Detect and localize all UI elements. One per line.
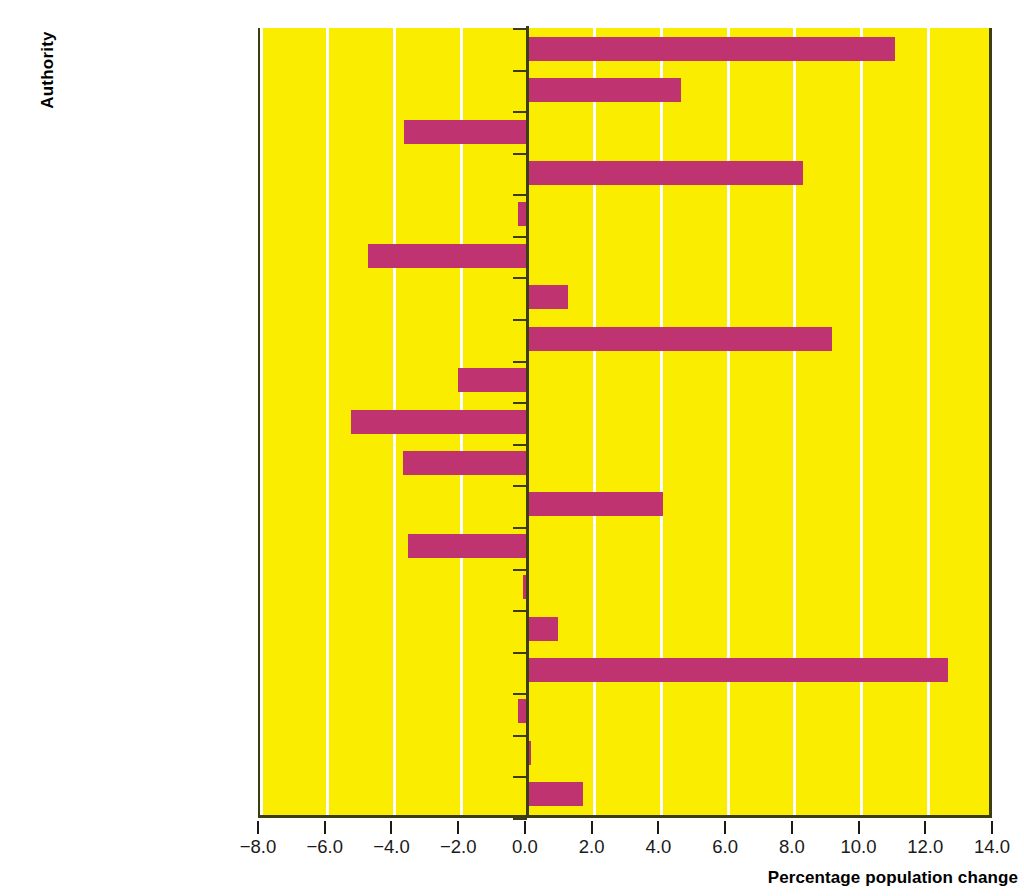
x-tick-label: 14.0 bbox=[974, 836, 1010, 858]
category-tick bbox=[513, 776, 527, 778]
x-tick bbox=[324, 821, 326, 834]
bar bbox=[528, 285, 568, 309]
bar-row bbox=[261, 442, 989, 483]
bar-row bbox=[261, 111, 989, 152]
bar-row bbox=[261, 608, 989, 649]
bar-row bbox=[261, 28, 989, 69]
bar-row bbox=[261, 484, 989, 525]
x-tick bbox=[591, 821, 593, 834]
bar-row bbox=[261, 691, 989, 732]
bar bbox=[404, 120, 527, 144]
bar bbox=[368, 244, 528, 268]
gridline bbox=[994, 28, 997, 815]
category-tick bbox=[513, 735, 527, 737]
bar bbox=[528, 617, 558, 641]
x-tick bbox=[724, 821, 726, 834]
x-tick bbox=[524, 821, 526, 834]
x-tick-label: 10.0 bbox=[841, 836, 877, 858]
bar bbox=[403, 451, 528, 475]
x-tick-label: 4.0 bbox=[646, 836, 672, 858]
x-tick bbox=[991, 821, 993, 834]
bar-row bbox=[261, 732, 989, 773]
bar-row bbox=[261, 401, 989, 442]
x-tick-label: 0.0 bbox=[512, 836, 538, 858]
x-axis-tick-labels: −8.0−6.0−4.0−2.00.02.04.06.08.010.012.01… bbox=[258, 836, 992, 864]
bar bbox=[528, 161, 803, 185]
bar bbox=[528, 37, 895, 61]
category-tick bbox=[513, 319, 527, 321]
x-tick bbox=[858, 821, 860, 834]
x-tick-label: 2.0 bbox=[579, 836, 605, 858]
bar-row bbox=[261, 69, 989, 110]
bar bbox=[528, 658, 948, 682]
bar-series bbox=[261, 28, 989, 815]
bar-row bbox=[261, 649, 989, 690]
zero-axis-line bbox=[526, 26, 529, 815]
bar bbox=[528, 327, 832, 351]
x-tick bbox=[657, 821, 659, 834]
bar-row bbox=[261, 152, 989, 193]
bar-row bbox=[261, 235, 989, 276]
x-axis-title: Percentage population change bbox=[768, 868, 1018, 888]
x-tick-label: −2.0 bbox=[440, 836, 477, 858]
category-tick bbox=[513, 361, 527, 363]
category-tick bbox=[513, 70, 527, 72]
x-axis-tick-marks bbox=[258, 821, 992, 835]
category-tick bbox=[513, 153, 527, 155]
bar-row bbox=[261, 566, 989, 607]
bar bbox=[528, 492, 663, 516]
category-tick bbox=[513, 485, 527, 487]
category-tick bbox=[513, 527, 527, 529]
bar bbox=[528, 782, 583, 806]
plot-area bbox=[258, 28, 992, 818]
bar bbox=[528, 78, 681, 102]
category-tick bbox=[513, 194, 527, 196]
bar bbox=[351, 410, 528, 434]
bar-chart: Authority YorkWest YorkshireTyne and Wea… bbox=[0, 0, 1024, 896]
bar bbox=[408, 534, 528, 558]
category-tick bbox=[513, 693, 527, 695]
category-tick bbox=[513, 610, 527, 612]
category-tick bbox=[513, 28, 527, 30]
x-tick bbox=[257, 821, 259, 834]
category-tick bbox=[513, 277, 527, 279]
x-tick-label: −6.0 bbox=[306, 836, 343, 858]
x-tick bbox=[390, 821, 392, 834]
category-tick bbox=[513, 236, 527, 238]
category-tick bbox=[513, 569, 527, 571]
category-tick bbox=[513, 111, 527, 113]
x-tick-label: −4.0 bbox=[373, 836, 410, 858]
x-tick-label: 8.0 bbox=[779, 836, 805, 858]
bar-row bbox=[261, 525, 989, 566]
bar-row bbox=[261, 277, 989, 318]
bar-row bbox=[261, 359, 989, 400]
x-tick bbox=[924, 821, 926, 834]
bar-row bbox=[261, 194, 989, 235]
bar bbox=[458, 368, 528, 392]
x-tick-label: 12.0 bbox=[907, 836, 943, 858]
bar-row bbox=[261, 318, 989, 359]
category-tick bbox=[513, 818, 527, 820]
x-tick bbox=[791, 821, 793, 834]
category-tick bbox=[513, 652, 527, 654]
category-tick bbox=[513, 444, 527, 446]
category-tick bbox=[513, 402, 527, 404]
x-tick-label: −8.0 bbox=[240, 836, 277, 858]
x-tick bbox=[457, 821, 459, 834]
bar-row bbox=[261, 774, 989, 815]
x-tick-label: 6.0 bbox=[712, 836, 738, 858]
